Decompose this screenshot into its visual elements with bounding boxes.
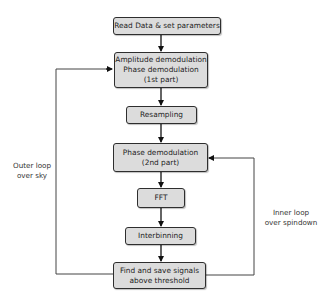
outer-loop-label-line: Outer loop <box>12 161 52 171</box>
node-label: Phase demodulation <box>123 65 199 75</box>
node-label: FFT <box>155 193 168 203</box>
node-label: (1st part) <box>144 75 179 85</box>
node-label: Read Data & set parameters <box>114 21 220 31</box>
node-label: Find and save signals <box>120 266 199 276</box>
node-resampling: Resampling <box>126 106 197 124</box>
outer-loop-label-line: over sky <box>12 171 52 181</box>
node-label: Interbinning <box>138 231 183 241</box>
node-read-data: Read Data & set parameters <box>113 17 221 35</box>
inner-loop-label: Inner loop over spindown <box>260 208 322 228</box>
node-label: Resampling <box>140 110 183 120</box>
node-interbinning: Interbinning <box>125 227 196 245</box>
node-phase-demodulation-2: Phase demodulation (2nd part) <box>113 143 208 172</box>
node-label: above threshold <box>130 276 190 286</box>
inner-loop-line <box>206 158 254 275</box>
outer-loop-line <box>56 69 113 274</box>
node-label: Amplitude demodulation <box>115 55 206 65</box>
node-label: (2nd part) <box>142 158 179 168</box>
inner-loop-label-line: over spindown <box>260 218 322 228</box>
outer-loop-label: Outer loop over sky <box>12 161 52 181</box>
node-label: Phase demodulation <box>123 148 199 158</box>
node-amplitude-phase-demodulation-1: Amplitude demodulation Phase demodulatio… <box>114 52 208 88</box>
node-fft: FFT <box>137 188 185 208</box>
inner-loop-label-line: Inner loop <box>260 208 322 218</box>
node-find-save-signals: Find and save signals above threshold <box>113 262 206 289</box>
flowchart-canvas: Read Data & set parameters Amplitude dem… <box>0 0 326 302</box>
